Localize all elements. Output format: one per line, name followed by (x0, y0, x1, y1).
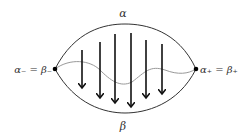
left-node (53, 67, 58, 72)
wavy-curve (55, 62, 196, 84)
top-label: α (119, 7, 127, 20)
right-node (194, 67, 199, 72)
vector-field-arrows (82, 33, 162, 107)
right-label: α₊ = β₊ (200, 64, 238, 75)
diagram-canvas: α β α₋ = β₋ α₊ = β₊ (0, 0, 247, 136)
bottom-label: β (119, 120, 126, 133)
left-label: α₋ = β₋ (14, 64, 52, 75)
alpha-curve (55, 24, 196, 69)
beta-curve (55, 69, 196, 113)
